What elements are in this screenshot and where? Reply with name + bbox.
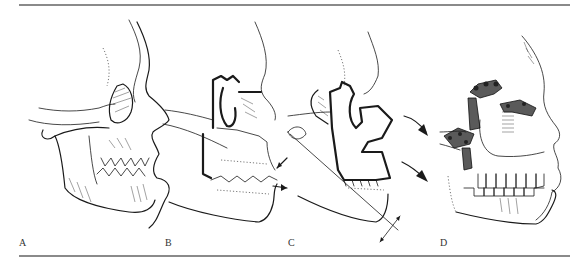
panel-c: C [288, 8, 438, 252]
skull-illustration-a [19, 8, 164, 238]
panel-label-a: A [19, 237, 27, 248]
panel-b: B [163, 8, 288, 252]
skull-illustration-c [288, 8, 438, 238]
top-rule [19, 4, 570, 6]
panel-label-b: B [165, 237, 172, 248]
panel-label-d: D [440, 237, 448, 248]
skull-illustration-b [163, 8, 288, 238]
panel-a: A [19, 8, 164, 252]
skull-illustration-d [440, 8, 575, 238]
panel-label-c: C [288, 237, 295, 248]
bottom-rule [19, 255, 570, 257]
panel-d: D [440, 8, 575, 252]
